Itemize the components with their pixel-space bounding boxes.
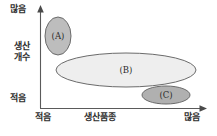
x-axis-title: 생산품종 [84,112,116,123]
y-axis-title: 생산 개수 [8,41,36,63]
y-axis-high-tick-label: 많음 [10,4,26,15]
region-label-a: (A) [52,31,65,41]
x-axis-low-tick-label: 적음 [35,112,51,123]
x-axis-arrow-icon [200,105,208,112]
region-label-c: (C) [159,90,172,100]
region-label-b: (B) [120,65,133,75]
y-axis-title-line1: 생산 [8,41,36,52]
y-axis-low-tick-label: 적음 [10,93,26,104]
y-axis-title-line2: 개수 [8,52,36,63]
x-axis-high-tick-label: 많음 [184,112,200,123]
y-axis-arrow-icon [37,5,44,13]
production-scatter-chart: (A) (B) (C) 많음 생산 개수 적음 적음 생산품종 많음 [0,0,217,136]
